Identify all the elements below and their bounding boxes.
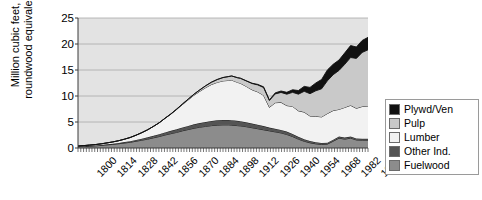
stacked-area-chart: Million cubic feet, roundwood equivalent… (0, 0, 482, 200)
x-tick-label: 1954 (317, 154, 342, 179)
x-tick-label: 1828 (134, 154, 159, 179)
legend-item: Fuelwood (389, 158, 476, 172)
legend-item: Pulp (389, 116, 476, 130)
x-tick-label: 1968 (337, 154, 362, 179)
legend-item: Lumber (389, 130, 476, 144)
legend-item: Plywd/Ven (389, 102, 476, 116)
x-tick-label: 1912 (256, 154, 281, 179)
legend-swatch (389, 104, 400, 115)
x-tick-label: 1926 (277, 154, 302, 179)
legend-label: Lumber (404, 132, 440, 143)
x-tick-label: 1814 (114, 154, 139, 179)
x-tick-label: 1800 (94, 154, 119, 179)
x-tick-label: 1884 (216, 154, 241, 179)
legend-label: Plywd/Ven (404, 104, 453, 115)
x-tick-label: 1870 (195, 154, 220, 179)
chart-legend: Plywd/VenPulpLumberOther Ind.Fuelwood (385, 99, 479, 175)
legend-label: Other Ind. (404, 146, 451, 157)
x-tick-label: 1842 (155, 154, 180, 179)
x-tick-label: 1940 (297, 154, 322, 179)
legend-swatch (389, 118, 400, 129)
x-tick-label: 1856 (175, 154, 200, 179)
x-tick-label: 1898 (236, 154, 261, 179)
legend-swatch (389, 132, 400, 143)
x-tick-label: 1982 (358, 154, 383, 179)
legend-label: Pulp (404, 118, 425, 129)
legend-swatch (389, 160, 400, 171)
legend-swatch (389, 146, 400, 157)
legend-label: Fuelwood (404, 160, 450, 171)
legend-item: Other Ind. (389, 144, 476, 158)
